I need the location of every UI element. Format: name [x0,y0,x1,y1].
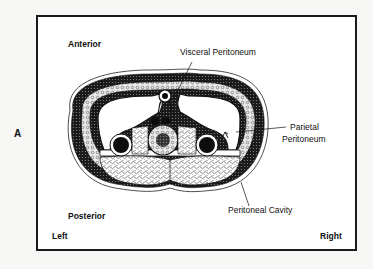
parietal-peritoneum-label-line2: Peritoneum [282,134,325,144]
visceral-peritoneum-label: Visceral Peritoneum [180,47,256,57]
aorta [151,117,159,125]
left-label: Left [52,231,68,241]
inferior-vena-cava [161,118,171,124]
posterior-label: Posterior [68,211,105,221]
left-kidney [110,134,132,156]
left-psoas [132,126,148,154]
right-kidney [196,134,218,156]
peritoneal-cavity-label: Peritoneal Cavity [228,205,292,215]
peritoneal-cavity-leader [241,182,249,206]
posterior-muscles [100,156,240,185]
right-label: Right [320,231,342,241]
parietal-peritoneum-label-line1: Parietal [290,122,319,132]
anterior-label: Anterior [68,39,101,49]
vertebra [148,125,178,155]
right-psoas [178,126,196,154]
